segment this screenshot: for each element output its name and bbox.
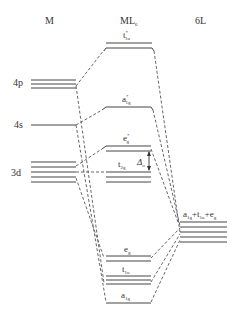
ligand-levels xyxy=(180,222,227,242)
mo-t2g-levels xyxy=(106,172,151,182)
label-ligand-sym: a1g+t1u+eg xyxy=(183,209,217,220)
mo-eg-star-levels xyxy=(102,146,151,151)
metal-3d-levels xyxy=(31,162,76,182)
mo-eg-levels xyxy=(106,256,151,261)
label-t2g: t2g xyxy=(118,159,126,170)
metal-4p-levels xyxy=(31,80,76,88)
metal-header: M xyxy=(45,15,54,26)
label-t1u: t1u xyxy=(122,264,130,275)
label-a1g: a1g xyxy=(121,290,131,301)
label-delta-o: Δo xyxy=(136,157,145,168)
label-4s: 4s xyxy=(14,119,23,130)
label-a1g-star: a*1g xyxy=(122,94,131,105)
label-eg-star: e*g xyxy=(123,133,130,144)
mo-t1u-star-levels xyxy=(104,43,154,51)
mo-a1g-star-level xyxy=(102,107,153,110)
correlation-lines xyxy=(76,50,180,302)
delta-o-arrow xyxy=(147,151,151,171)
label-3d: 3d xyxy=(11,167,21,178)
mo-diagram: M ML6 6L 4p 4s 3d t*1u a*1g e*g t2g Δo e… xyxy=(0,0,239,320)
label-eg: eg xyxy=(124,244,131,255)
label-4p: 4p xyxy=(13,77,23,88)
ligand-header: 6L xyxy=(195,15,206,26)
complex-header: ML6 xyxy=(120,15,138,27)
label-t1u-star: t*1u xyxy=(123,30,131,41)
mo-diagram-svg: M ML6 6L 4p 4s 3d t*1u a*1g e*g t2g Δo e… xyxy=(0,0,239,320)
mo-t1u-levels xyxy=(106,276,151,284)
